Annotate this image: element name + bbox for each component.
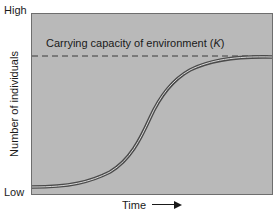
right-arrow-icon — [152, 201, 182, 209]
y-tick-high: High — [4, 4, 27, 16]
x-axis-title-text: Time — [122, 199, 146, 211]
carrying-capacity-label: Carrying capacity of environment (K) — [46, 37, 225, 49]
x-axis-title: Time — [122, 199, 182, 211]
y-tick-low: Low — [4, 186, 24, 198]
k-label-prefix: Carrying capacity of environment ( — [46, 37, 214, 49]
logistic-curve-inner — [32, 57, 272, 187]
y-axis-title: Number of individuals — [8, 51, 20, 157]
chart-svg — [0, 0, 280, 221]
k-label-suffix: ) — [221, 37, 225, 49]
logistic-curve-outer — [32, 57, 272, 187]
k-symbol: K — [214, 37, 221, 49]
